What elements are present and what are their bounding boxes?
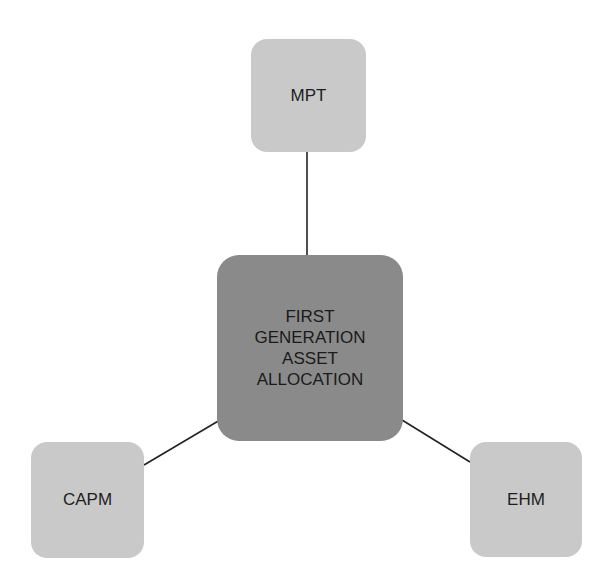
node-center-label: FIRST GENERATION ASSET ALLOCATION	[254, 306, 365, 390]
edge-center-capm	[144, 420, 220, 465]
node-capm: CAPM	[31, 442, 144, 558]
node-ehm: EHM	[470, 442, 582, 557]
node-mpt-label: MPT	[291, 86, 327, 106]
node-center: FIRST GENERATION ASSET ALLOCATION	[217, 255, 403, 441]
node-mpt: MPT	[251, 39, 366, 152]
node-capm-label: CAPM	[63, 490, 112, 510]
node-ehm-label: EHM	[507, 490, 545, 510]
edge-center-ehm	[402, 420, 470, 462]
